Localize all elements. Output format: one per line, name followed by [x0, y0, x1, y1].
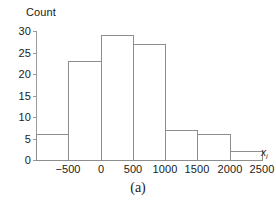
histogram-bar [165, 130, 198, 161]
y-tick-label: 15 [11, 91, 31, 102]
y-axis-title: Count [26, 6, 56, 18]
y-tick-mark [33, 31, 37, 32]
y-tick-label: 10 [11, 112, 31, 123]
histogram-bar [101, 35, 134, 161]
histogram-bar [230, 151, 263, 161]
y-tick-label: 25 [11, 48, 31, 59]
y-tick-label: 5 [11, 134, 31, 145]
figure-caption: (a) [0, 180, 276, 196]
y-tick-label: 30 [11, 26, 31, 37]
y-tick-label: 20 [11, 69, 31, 80]
chart-plot-area: Count 051015202530 −50005001000150020002… [0, 0, 276, 178]
histogram-figure: Count 051015202530 −50005001000150020002… [0, 0, 276, 207]
y-tick-mark [33, 96, 37, 97]
y-tick-mark [33, 117, 37, 118]
x-axis-title: xi [261, 148, 268, 162]
y-tick-label: 0 [11, 155, 31, 166]
y-tick-mark [33, 74, 37, 75]
histogram-bar [36, 134, 69, 161]
x-tick-label: 2500 [242, 164, 276, 175]
x-axis-title-subscript: i [266, 153, 268, 160]
histogram-bar [68, 61, 102, 161]
y-tick-mark [33, 53, 37, 54]
histogram-bar [197, 134, 231, 161]
histogram-bar [133, 44, 166, 161]
